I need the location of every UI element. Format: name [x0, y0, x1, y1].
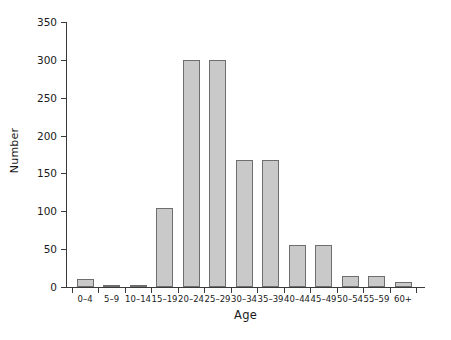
x-axis-tick-label: 5–9 — [104, 294, 119, 304]
x-axis-tick-label: 60+ — [394, 294, 412, 304]
x-axis-tick-label: 25–29 — [205, 294, 231, 304]
x-axis-tick — [98, 288, 99, 293]
bar — [236, 160, 253, 287]
x-axis-tick — [231, 288, 232, 293]
x-axis-tick — [125, 288, 126, 293]
x-axis-title: Age — [66, 308, 425, 322]
x-axis-tick-label: 55–59 — [364, 294, 390, 304]
bar — [77, 279, 94, 287]
y-axis-tick-label: 250 — [37, 93, 57, 103]
x-axis-tick — [178, 288, 179, 293]
x-axis-line — [66, 287, 425, 288]
y-axis-title: Number — [6, 0, 24, 300]
y-axis-tick-label: 100 — [37, 206, 57, 216]
y-axis-tick-label: 200 — [37, 131, 57, 141]
bar — [368, 276, 385, 287]
bar — [342, 276, 359, 287]
y-axis-title-text: Number — [9, 127, 22, 172]
x-axis-tick-label: 30–34 — [231, 294, 257, 304]
y-axis-tick-label: 350 — [37, 17, 57, 27]
y-axis-tick-label: 0 — [50, 282, 57, 292]
x-axis-tick-label: 40–44 — [284, 294, 310, 304]
x-axis-tick — [337, 288, 338, 293]
x-axis-tick — [363, 288, 364, 293]
x-axis-tick — [204, 288, 205, 293]
x-axis-tick-label: 35–39 — [258, 294, 284, 304]
bar — [262, 160, 279, 287]
bar — [209, 60, 226, 287]
bar-chart: Number 050100150200250300350 0–45–910–14… — [0, 0, 451, 340]
bar — [315, 245, 332, 287]
x-axis-tick-label: 15–19 — [152, 294, 178, 304]
x-axis-tick — [257, 288, 258, 293]
x-axis-tick-label: 20–24 — [178, 294, 204, 304]
x-axis-tick — [151, 288, 152, 293]
bar — [289, 245, 306, 287]
y-axis-tick-label: 150 — [37, 168, 57, 178]
y-axis-tick-label: 50 — [44, 244, 57, 254]
y-axis-tick-label: 300 — [37, 55, 57, 65]
plot-area — [66, 22, 425, 287]
bar — [183, 60, 200, 287]
x-axis-tick — [390, 288, 391, 293]
bar — [156, 208, 173, 287]
x-axis-tick-label: 45–49 — [311, 294, 337, 304]
x-axis-tick — [416, 288, 417, 293]
x-axis-tick — [72, 288, 73, 293]
x-axis-tick — [310, 288, 311, 293]
x-axis-tick-label: 10–14 — [125, 294, 151, 304]
x-axis-tick-label: 50–54 — [337, 294, 363, 304]
x-axis-tick — [284, 288, 285, 293]
x-axis-tick-label: 0–4 — [78, 294, 93, 304]
